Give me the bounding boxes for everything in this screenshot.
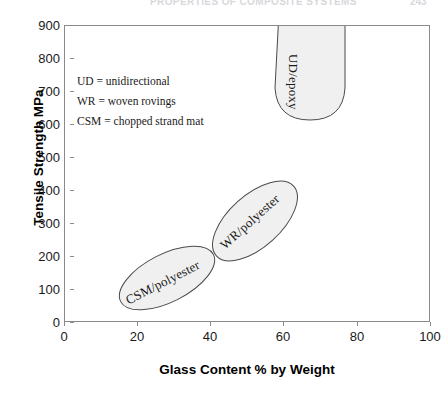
x-tick-label: 40 [185,330,235,344]
x-tick-mark [64,322,65,326]
y-axis-title: Tensile Strength MPa [31,48,46,268]
x-tick-label: 60 [258,330,308,344]
x-axis-title: Glass Content % by Weight [64,362,430,377]
x-tick-mark [430,322,431,326]
x-tick-label: 0 [39,330,89,344]
x-axis-ticks: 0 20 40 60 80 100 [0,0,446,404]
x-tick-label: 80 [332,330,382,344]
x-tick-mark [137,322,138,326]
x-tick-mark [283,322,284,326]
x-tick-mark [357,322,358,326]
x-tick-mark [210,322,211,326]
x-tick-label: 20 [112,330,162,344]
chart-figure: PROPERTIES OF COMPOSITE SYSTEMS 243 UD/e… [0,0,446,404]
x-tick-label: 100 [405,330,446,344]
